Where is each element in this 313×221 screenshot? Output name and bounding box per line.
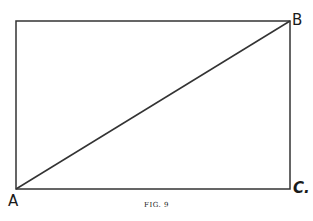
figure-caption: FIG. 9	[0, 201, 313, 209]
figure-diagram	[0, 0, 313, 221]
label-c: C.	[293, 181, 310, 196]
diagonal-line	[16, 21, 290, 189]
label-b: B	[292, 13, 302, 28]
